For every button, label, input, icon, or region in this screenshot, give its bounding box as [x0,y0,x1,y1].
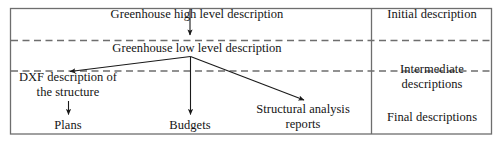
band-label-intermediate-line-1: Intermediate [400,62,464,76]
band-label-final-descriptions: Final descriptions [387,110,477,124]
node-greenhouse-high-level-description: Greenhouse high level description [111,7,284,21]
edge-low-to-structural-reports [191,57,305,101]
node-structural-analysis-reports: Structural analysis reports [241,102,365,132]
node-budgets: Budgets [169,118,210,132]
band-label-intermediate-line-2: descriptions [401,77,462,91]
node-dxf-description-of-the-structure: DXF description of the structure [3,70,133,100]
node-structural-line-1: Structural analysis [256,102,350,116]
diagram-container: Greenhouse high level description Greenh… [0,0,502,142]
node-dxf-line-2: the structure [37,85,100,99]
band-label-initial-description: Initial description [387,7,476,21]
band-label-intermediate-descriptions: Intermediate descriptions [377,62,487,92]
node-structural-line-2: reports [285,117,320,131]
node-greenhouse-low-level-description: Greenhouse low level description [112,41,281,55]
node-dxf-line-1: DXF description of [19,70,117,84]
node-plans: Plans [54,118,81,132]
